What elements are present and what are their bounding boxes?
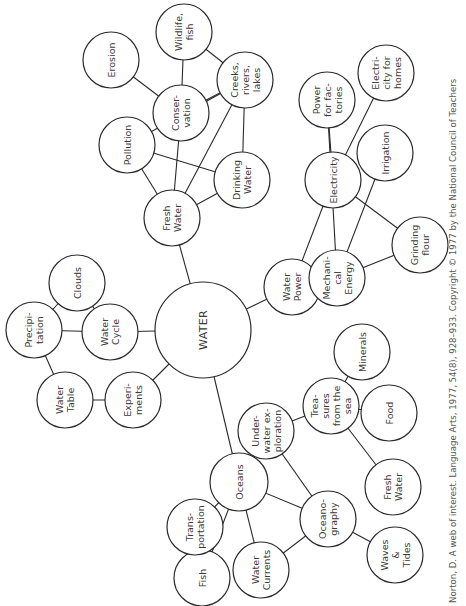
node-label: Minerals <box>357 332 368 372</box>
node-label: Under-water ex-ploration <box>250 409 283 454</box>
node-label: Electri-city forhomes <box>370 56 403 89</box>
node-label: Powerfor fac-tories <box>311 83 344 117</box>
node-experiments: Experi-ments <box>105 372 161 428</box>
node-label: Pollution <box>122 125 133 166</box>
node-label: Precipi-tation <box>23 312 45 347</box>
nodes-layer: WATERFreshWaterPollutionConser-vationEro… <box>6 4 448 606</box>
concept-web-diagram: WATERFreshWaterPollutionConser-vationEro… <box>0 0 466 606</box>
node-food: Food <box>361 385 417 441</box>
node-label: Fish <box>197 569 208 587</box>
node-electricity: Electricity <box>305 152 361 208</box>
node-mechanical-energy: Mechani-calEnergy <box>309 250 365 306</box>
node-label: WaterPower <box>281 273 303 302</box>
node-clouds: Clouds <box>49 255 105 311</box>
node-treasures: Trea-suresfrom thesea <box>303 378 359 434</box>
node-fresh-water-sea: FreshWater <box>365 459 421 515</box>
node-label: Erosion <box>106 43 117 78</box>
node-conservation: Conser-vation <box>153 85 209 141</box>
node-label: Experi-ments <box>122 383 144 416</box>
node-oceans: Oceans <box>210 453 268 511</box>
node-label: DrinkingWater <box>231 160 253 200</box>
node-pollution: Pollution <box>99 117 155 173</box>
node-label: Oceans <box>234 464 245 499</box>
node-drinking-water: DrinkingWater <box>214 152 270 208</box>
node-label: WaterCycle <box>99 318 121 346</box>
node-water-currents: WaterCurrents <box>233 542 289 598</box>
node-label: Conser-vation <box>170 95 192 131</box>
node-label: Clouds <box>72 267 83 299</box>
node-minerals: Minerals <box>334 324 390 380</box>
node-label: WaterTable <box>54 386 76 414</box>
node-fresh-water: FreshWater <box>144 190 200 246</box>
node-water-table: WaterTable <box>37 372 93 428</box>
node-precipitation: Precipi-tation <box>6 302 62 358</box>
node-fish: Fish <box>174 550 230 606</box>
node-transportation: Trans-portation <box>167 499 223 555</box>
node-electricity-homes: Electri-city forhomes <box>358 45 414 101</box>
node-wildlife-fish: Wildlife,fish <box>156 4 212 60</box>
node-label: Oceano-graphy <box>317 499 339 539</box>
node-power-factories: Powerfor fac-tories <box>299 72 355 128</box>
node-creeks: Creeks,rivers,lakes <box>217 52 273 108</box>
node-label: Electricity <box>328 156 339 204</box>
node-underwater-exploration: Under-water ex-ploration <box>238 403 294 459</box>
node-erosion: Erosion <box>83 32 139 88</box>
node-label: FreshWater <box>382 473 404 501</box>
node-label: Food <box>384 402 395 425</box>
node-label: FreshWater <box>161 204 183 232</box>
node-water: WATER <box>155 282 251 378</box>
node-oceanography: Oceano-graphy <box>300 491 356 547</box>
node-water-cycle: WaterCycle <box>82 304 138 360</box>
node-irrigation: Irrigation <box>357 125 413 181</box>
figure-caption: Norton, D. A web of interest. Language A… <box>448 78 458 603</box>
node-label: WATER <box>197 310 210 350</box>
node-grinding-flour: Grindingflour <box>392 217 448 273</box>
node-label: Irrigation <box>380 131 391 174</box>
node-waves-tides: Waves&Tides <box>367 527 423 583</box>
